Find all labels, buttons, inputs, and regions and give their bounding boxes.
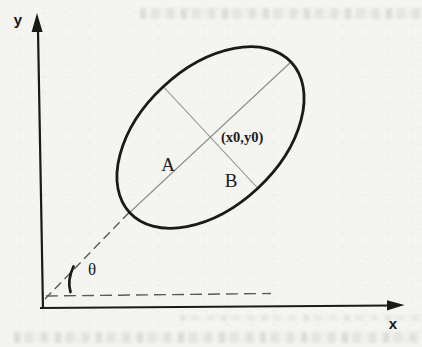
x-axis-arrow	[387, 300, 405, 310]
semi-minor-label-b: B	[225, 170, 238, 191]
x-axis-line	[40, 306, 390, 309]
ellipse-diagram: y x A B (x0,y0) θ	[0, 0, 422, 347]
center-point-label: (x0,y0)	[221, 129, 263, 146]
horizontal-reference-dashed-line	[46, 294, 271, 297]
semi-major-label-a: A	[161, 154, 175, 175]
x-axis-label: x	[389, 315, 398, 332]
major-axis-extension-dashed-line	[45, 212, 130, 299]
theta-angle-arc	[69, 267, 73, 293]
theta-label: θ	[88, 260, 96, 279]
y-axis-line	[38, 30, 43, 309]
figure-stage: y x A B (x0,y0) θ	[0, 0, 422, 347]
y-axis-arrow	[32, 13, 43, 32]
y-axis-label: y	[14, 11, 23, 28]
